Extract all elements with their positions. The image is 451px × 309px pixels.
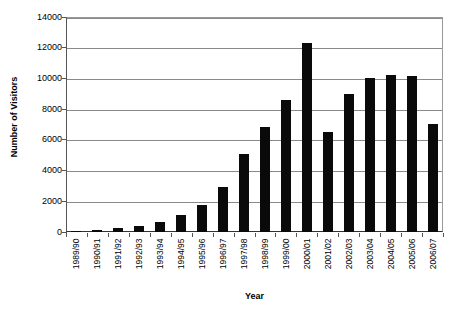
bar-slot (171, 17, 192, 232)
bar-slot (129, 17, 150, 232)
bar (386, 75, 396, 232)
bar (176, 215, 186, 232)
bar-slot (317, 17, 338, 232)
bar (113, 228, 123, 232)
x-tick-label: 1994/95 (177, 239, 186, 289)
x-label-slot: 2003/04 (359, 237, 380, 287)
bar-slot (150, 17, 171, 232)
x-tick-label: 1989/90 (72, 239, 81, 289)
x-tick-label: 1993/94 (156, 239, 165, 289)
bar-slot (234, 17, 255, 232)
bar (407, 76, 417, 232)
x-label-slot: 1990/91 (87, 237, 108, 287)
bar-slot (192, 17, 213, 232)
bar (197, 205, 207, 232)
y-tick-label: 0 (12, 228, 62, 237)
x-tick-label: 2003/04 (365, 239, 374, 289)
bar-slot (422, 17, 443, 232)
bar-slot (296, 17, 317, 232)
x-tick-label: 1998/99 (260, 239, 269, 289)
x-axis-title: Year (66, 291, 443, 301)
bar (218, 187, 228, 232)
x-label-slot: 1996/97 (213, 237, 234, 287)
bar-slot (275, 17, 296, 232)
bar (428, 124, 438, 232)
x-tick-label: 1995/96 (198, 239, 207, 289)
bar (281, 100, 291, 232)
y-tick-label: 4000 (12, 166, 62, 175)
x-label-slot: 1989/90 (66, 237, 87, 287)
y-tick-label: 10000 (12, 74, 62, 83)
bar-slot (66, 17, 87, 232)
x-tick-label: 2005/06 (407, 239, 416, 289)
bar (155, 222, 165, 232)
bar (71, 231, 81, 232)
x-label-slot: 1995/96 (192, 237, 213, 287)
x-tick-label: 1997/98 (240, 239, 249, 289)
x-tick-label: 1992/93 (135, 239, 144, 289)
x-tick-label: 1991/92 (114, 239, 123, 289)
x-label-slot: 1999/00 (275, 237, 296, 287)
x-label-slot: 1997/98 (234, 237, 255, 287)
bar-slot (338, 17, 359, 232)
bar-slot (213, 17, 234, 232)
bar (239, 154, 249, 232)
x-tick-label: 2000/01 (302, 239, 311, 289)
x-label-slot: 2002/03 (338, 237, 359, 287)
y-tick-label: 6000 (12, 135, 62, 144)
bar (323, 132, 333, 232)
y-tick-label: 8000 (12, 105, 62, 114)
y-tick-label: 12000 (12, 43, 62, 52)
bar (260, 127, 270, 232)
x-label-slot: 1991/92 (108, 237, 129, 287)
x-tick-label: 1990/91 (93, 239, 102, 289)
x-label-slot: 1998/99 (255, 237, 276, 287)
x-tick-mark (443, 233, 444, 237)
bar (365, 78, 375, 232)
x-axis-labels: 1989/901990/911991/921992/931993/941994/… (66, 237, 443, 287)
y-tick-label: 14000 (12, 13, 62, 22)
bar-slot (255, 17, 276, 232)
x-tick-label: 2004/05 (386, 239, 395, 289)
x-label-slot: 2006/07 (422, 237, 443, 287)
x-label-slot: 1993/94 (150, 237, 171, 287)
bar (134, 226, 144, 232)
x-label-slot: 2001/02 (317, 237, 338, 287)
x-tick-label: 2002/03 (344, 239, 353, 289)
x-label-slot: 1992/93 (129, 237, 150, 287)
y-tick-label: 2000 (12, 197, 62, 206)
x-label-slot: 2005/06 (401, 237, 422, 287)
bar (302, 43, 312, 232)
x-label-slot: 2000/01 (296, 237, 317, 287)
bar-slot (108, 17, 129, 232)
bar-slot (401, 17, 422, 232)
bar-series (66, 17, 443, 232)
bar-slot (87, 17, 108, 232)
bar (92, 230, 102, 232)
x-label-slot: 1994/95 (171, 237, 192, 287)
x-tick-label: 2006/07 (428, 239, 437, 289)
chart-title-cropped (110, 0, 340, 4)
x-label-slot: 2004/05 (380, 237, 401, 287)
x-tick-label: 1996/97 (219, 239, 228, 289)
x-tick-label: 2001/02 (323, 239, 332, 289)
x-tick-label: 1999/00 (281, 239, 290, 289)
bar-chart: Number of Visitors 140001200010000800060… (0, 0, 451, 309)
bar-slot (380, 17, 401, 232)
bar (344, 94, 354, 232)
bar-slot (359, 17, 380, 232)
